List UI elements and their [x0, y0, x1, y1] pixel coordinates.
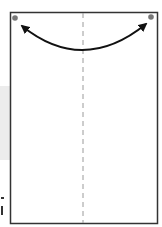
top-left-corner-dot — [12, 15, 18, 21]
fold-diagram — [0, 0, 162, 227]
paper-sheet — [11, 13, 158, 224]
top-right-corner-dot — [148, 14, 154, 20]
